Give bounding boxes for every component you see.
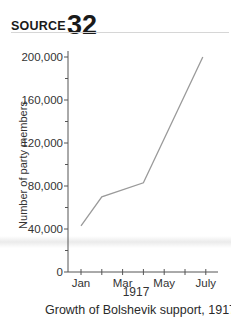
y-tick-label: 40,000 xyxy=(28,223,63,235)
x-axis-title: 1917 xyxy=(123,285,150,299)
y-tick-label: 0 xyxy=(57,266,63,278)
figure-caption: Growth of Bolshevik support, 1917. xyxy=(45,303,231,317)
y-axis-title: Number of party members xyxy=(17,101,29,229)
x-tick-label: Jan xyxy=(72,277,91,289)
y-tick-label: 200,000 xyxy=(21,51,63,63)
x-tick-label: July xyxy=(196,277,217,289)
series-line xyxy=(81,57,203,226)
x-tick-label: May xyxy=(153,277,175,289)
data-series xyxy=(81,57,203,226)
line-chart: 040,00080,000120,000160,000200,000 JanMa… xyxy=(0,0,231,334)
y-tick-label: 80,000 xyxy=(28,180,63,192)
